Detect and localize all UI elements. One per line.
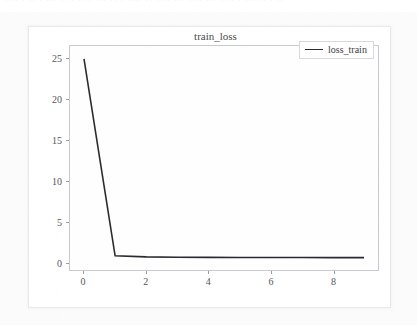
x-tick-mark-2 xyxy=(208,271,209,274)
x-tick-label-0: 0 xyxy=(68,276,98,287)
y-axis: 0510152025 xyxy=(33,45,69,271)
x-tick-label-1: 2 xyxy=(131,276,161,287)
x-axis: 02468 xyxy=(69,271,379,293)
x-tick-label-2: 4 xyxy=(193,276,223,287)
y-tick-label-2: 10 xyxy=(32,175,62,186)
x-tick-mark-3 xyxy=(271,271,272,274)
x-tick-mark-0 xyxy=(83,271,84,274)
plot-area xyxy=(69,45,379,271)
y-tick-label-3: 15 xyxy=(32,134,62,145)
legend-line-swatch xyxy=(305,49,323,50)
line-chart-svg xyxy=(70,46,378,270)
y-tick-label-5: 25 xyxy=(32,53,62,64)
x-tick-label-3: 6 xyxy=(256,276,286,287)
x-tick-mark-1 xyxy=(146,271,147,274)
cut-off-text: · ·· · ·· · ··· · ·· ·· · ··· ·· · ···· … xyxy=(4,0,284,5)
y-tick-label-4: 20 xyxy=(32,94,62,105)
chart-legend: loss_train xyxy=(299,41,374,59)
y-tick-label-1: 5 xyxy=(32,216,62,227)
x-tick-mark-4 xyxy=(334,271,335,274)
legend-label-loss-train: loss_train xyxy=(328,44,367,55)
x-tick-label-4: 8 xyxy=(319,276,349,287)
series-line-loss-train xyxy=(84,59,364,258)
y-tick-label-0: 0 xyxy=(32,257,62,268)
cut-off-text-strip: · ·· · ·· · ··· · ·· ·· · ··· ·· · ···· … xyxy=(0,0,417,12)
